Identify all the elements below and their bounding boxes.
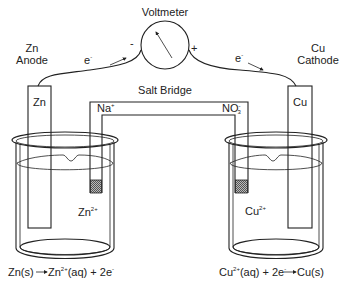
- cation-label: Na+: [97, 102, 115, 114]
- anode-eq-left: Zn(s): [8, 266, 34, 278]
- electron-label-right: e-: [235, 52, 243, 64]
- zinc-ion-label: Zn2+: [78, 206, 98, 218]
- voltmeter-negative: -: [130, 37, 134, 49]
- cathode-eq-left: Cu2+(aq) + 2e-: [219, 266, 286, 278]
- anode-half-reaction: Zn(s) Zn2+(aq) + 2e-: [8, 266, 114, 278]
- salt-bridge-plug-right: [236, 180, 248, 193]
- cathode-label: Cathode: [297, 54, 339, 66]
- copper-electrode-label: Cu: [293, 96, 307, 108]
- copper-electrode: Cu: [288, 86, 312, 228]
- cathode-eq-right: Cu(s): [297, 266, 324, 278]
- voltmeter-label: Voltmeter: [142, 6, 189, 18]
- anode-eq-right: Zn2+(aq) + 2e-: [48, 266, 114, 278]
- copper-ion-label: Cu2+: [245, 205, 266, 217]
- anode-label-element: Zn: [26, 42, 39, 54]
- cathode-label-element: Cu: [311, 42, 325, 54]
- zinc-electrode-label: Zn: [33, 96, 46, 108]
- salt-bridge-label: Salt Bridge: [138, 84, 192, 96]
- galvanic-cell-diagram: Voltmeter - + e- e- Zn Anode Cu Cathode …: [0, 0, 350, 290]
- salt-bridge-plug-left: [91, 180, 102, 193]
- anode-label: Anode: [16, 54, 48, 66]
- electron-label-left: e-: [84, 54, 92, 66]
- cathode-half-reaction: Cu2+(aq) + 2e- Cu(s): [219, 266, 324, 278]
- voltmeter-positive: +: [191, 42, 197, 54]
- voltmeter-dial: [141, 21, 189, 69]
- electron-flow-arrow-right: [248, 63, 263, 70]
- voltmeter: Voltmeter - +: [130, 6, 197, 69]
- anion-label: NO-3: [222, 102, 242, 115]
- voltmeter-needle-icon: [156, 32, 172, 58]
